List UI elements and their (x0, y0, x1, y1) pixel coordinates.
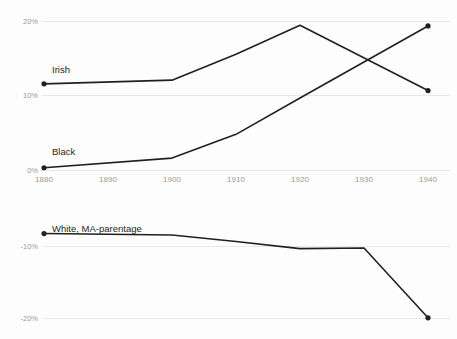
upper-panel-gridlines (40, 22, 450, 171)
series-marker-irish-1880 (41, 81, 46, 86)
series-marker-white-1880 (41, 231, 46, 236)
series-marker-black-1880 (41, 165, 46, 170)
upper-panel-y-axis: 20% 10% 0% (23, 17, 38, 175)
series-marker-irish-1940 (425, 88, 430, 93)
xtick-label-1920: 1920 (291, 175, 309, 184)
series-label-black: Black (52, 146, 75, 157)
line-chart-figure: 20% 10% 0% 1880 1890 1900 1910 1920 1930… (0, 0, 457, 339)
series-marker-black-1940 (425, 23, 430, 28)
series-irish: Irish (41, 25, 430, 93)
ytick-label-0pct: 0% (27, 166, 38, 175)
lower-panel-gridlines (42, 247, 450, 319)
ytick-label-20pct: 20% (23, 17, 38, 26)
series-black: Black (41, 23, 430, 170)
ytick-label-10pct: 10% (23, 91, 38, 100)
xtick-label-1910: 1910 (227, 175, 245, 184)
xtick-label-1880: 1880 (35, 175, 53, 184)
chart-canvas: 20% 10% 0% 1880 1890 1900 1910 1920 1930… (0, 0, 457, 339)
xtick-label-1900: 1900 (163, 175, 181, 184)
series-line-black (44, 26, 428, 168)
upper-panel-x-axis: 1880 1890 1900 1910 1920 1930 1940 (35, 175, 437, 184)
xtick-label-1930: 1930 (355, 175, 373, 184)
ytick-label-neg10pct: -10% (20, 242, 38, 251)
ytick-label-neg20pct: -20% (20, 314, 38, 323)
series-marker-white-1940 (425, 315, 430, 320)
series-label-white-ma-parentage: White, MA-parentage (52, 223, 142, 234)
lower-panel-y-axis: -10% -20% (20, 242, 38, 323)
xtick-label-1940: 1940 (419, 175, 437, 184)
series-label-irish: Irish (52, 64, 70, 75)
series-white-ma-parentage: White, MA-parentage (41, 223, 430, 320)
xtick-label-1890: 1890 (99, 175, 117, 184)
